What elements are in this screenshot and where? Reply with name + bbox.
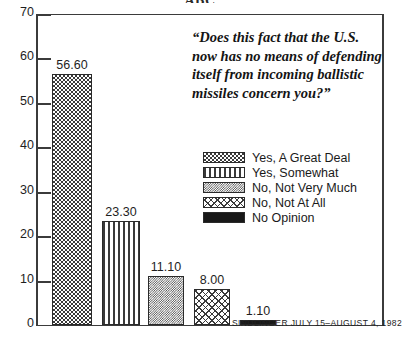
bar-group: 56.60 [52,54,92,325]
source-attribution: SINDLINGER JULY 15–AUGUST 4, 1982 [232,318,402,328]
y-axis-tick-label: 20 [20,227,34,241]
bar-value-label: 8.00 [200,273,224,287]
legend-item: Yes, Somewhat [203,165,357,180]
legend-item: No Opinion [203,210,357,225]
legend-item: Yes, A Great Deal [203,150,357,165]
bar [52,74,92,325]
legend-swatch [203,197,245,208]
legend-item-label: Yes, A Great Deal [252,151,350,165]
bar [194,289,230,325]
legend-item: No, Not Very Much [203,180,357,195]
legend-item-label: Yes, Somewhat [252,166,338,180]
legend-swatch [203,212,245,223]
bar-value-label: 56.60 [56,58,87,72]
legend-swatch [203,182,245,193]
bar-value-label: 11.10 [151,260,181,274]
question-quote: “Does this fact that the U.S. now has no… [192,28,382,102]
y-axis-tick-label: 10 [20,272,34,286]
bar-group: 11.10 [148,256,184,325]
y-axis-tick-label: 70 [20,5,34,19]
legend-item-label: No Opinion [252,211,315,225]
y-axis-tick-label: 50 [20,94,34,108]
bar-value-label: 1.10 [246,304,270,318]
y-axis-tick-label: 60 [20,49,34,63]
y-axis-tick-label: 0 [27,316,34,330]
legend-swatch [203,167,245,178]
legend-item-label: No, Not Very Much [252,181,357,195]
chart-title: ABC [0,0,400,3]
legend-item-label: No, Not At All [252,196,326,210]
bar-group: 23.30 [102,201,140,325]
bar-value-label: 23.30 [105,205,136,219]
bar-group: 8.00 [194,269,230,325]
bar [102,221,140,325]
legend: Yes, A Great DealYes, SomewhatNo, Not Ve… [203,150,357,225]
legend-swatch [203,152,245,163]
bar [148,276,184,325]
legend-item: No, Not At All [203,195,357,210]
y-axis-tick-label: 40 [20,138,34,152]
y-axis-tick-label: 30 [20,183,34,197]
